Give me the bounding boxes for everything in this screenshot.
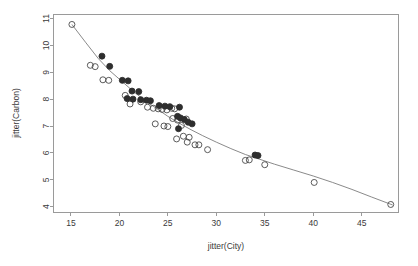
data-point-filled [125, 78, 131, 84]
y-tick-label: 7 [42, 123, 52, 128]
data-point-open [165, 124, 171, 130]
y-axis-ticks: 4567891011 [42, 14, 54, 209]
y-tick-label: 11 [42, 14, 52, 23]
x-tick-label: 20 [115, 218, 125, 228]
y-tick-label: 6 [42, 150, 52, 155]
x-axis-ticks: 15202530354045 [66, 212, 366, 228]
x-tick-label: 30 [212, 218, 222, 228]
data-point-filled [189, 121, 195, 127]
data-point-filled [176, 104, 182, 110]
x-axis-title: jitter(City) [207, 241, 245, 251]
data-point-open [106, 77, 112, 83]
x-tick-label: 15 [66, 218, 76, 228]
x-tick-label: 40 [308, 218, 318, 228]
data-point-filled [156, 103, 162, 109]
x-tick-label: 35 [260, 218, 270, 228]
y-tick-label: 9 [42, 70, 52, 75]
plot-frame [54, 15, 399, 213]
data-point-open [196, 142, 202, 148]
data-point-open [174, 136, 180, 142]
data-point-filled [119, 77, 125, 83]
y-axis-title: jitter(Carbon) [11, 88, 21, 139]
x-tick-label: 25 [163, 218, 173, 228]
data-point-filled [138, 97, 144, 103]
y-tick-label: 5 [42, 177, 52, 182]
data-point-filled [136, 89, 142, 95]
data-point-filled [99, 53, 105, 59]
data-point-open [205, 147, 211, 153]
x-tick-label: 45 [357, 218, 367, 228]
data-point-open [152, 121, 158, 127]
data-point-filled [130, 96, 136, 102]
scatter-plot-figure: 15202530354045 4567891011 jitter(City) j… [0, 0, 418, 266]
data-point-filled [167, 104, 173, 110]
trend-line [72, 24, 393, 205]
data-point-open [262, 162, 268, 168]
data-point-open [180, 133, 186, 139]
data-point-open [246, 157, 252, 163]
data-point-filled [255, 153, 261, 159]
data-point-filled [176, 126, 182, 132]
data-point-filled [124, 96, 130, 102]
data-points-layer [69, 21, 394, 207]
data-point-filled [147, 98, 153, 104]
data-point-open [311, 179, 317, 185]
data-point-open [145, 104, 151, 110]
data-point-filled [107, 63, 113, 69]
plot-canvas: 15202530354045 4567891011 jitter(City) j… [0, 0, 418, 266]
y-tick-label: 4 [42, 204, 52, 209]
y-tick-label: 8 [42, 97, 52, 102]
data-point-open [100, 77, 106, 83]
y-tick-label: 10 [42, 40, 52, 50]
data-point-filled [129, 88, 135, 94]
